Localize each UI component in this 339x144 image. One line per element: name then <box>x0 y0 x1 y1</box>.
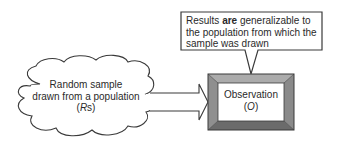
symbol-suffix: s) <box>87 102 95 113</box>
callout-text-segment: generalizable to <box>237 15 310 26</box>
cloud-label: Random sample drawn from a population (R… <box>30 79 142 114</box>
paren-close: ) <box>255 101 258 112</box>
callout-line-3: sample was drawn <box>186 38 320 50</box>
cloud-line-3: (Rs) <box>30 102 142 114</box>
cloud-line-1: Random sample <box>30 79 142 91</box>
callout-text: Results are generalizable to the populat… <box>186 15 320 50</box>
right-arrow <box>150 84 208 120</box>
cloud-line-2: drawn from a population <box>30 91 142 103</box>
observation-line-2: (O) <box>218 101 284 113</box>
observation-line-1: Observation <box>218 89 284 101</box>
observation-label: Observation (O) <box>218 89 284 112</box>
symbol-o: O <box>247 101 255 112</box>
callout-line-2: the population from which the <box>186 27 320 39</box>
callout-line-1: Results are generalizable to <box>186 15 320 27</box>
callout-emphasis: are <box>222 15 237 26</box>
callout-text-segment: Results <box>186 15 222 26</box>
